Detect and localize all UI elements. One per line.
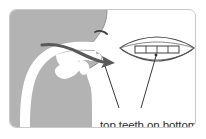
leader-line-right <box>141 56 156 108</box>
leader-anchor-dot <box>155 54 158 57</box>
figure-frame: top teeth on bottom lip <box>9 9 196 128</box>
diagram-canvas <box>10 10 195 127</box>
caption-label: top teeth on bottom lip <box>100 119 196 128</box>
leader-line-left <box>105 66 119 108</box>
leader-lines-group <box>105 54 157 108</box>
articulation-figure: top teeth on bottom lip <box>0 0 206 139</box>
front-mouth-group <box>120 37 194 61</box>
